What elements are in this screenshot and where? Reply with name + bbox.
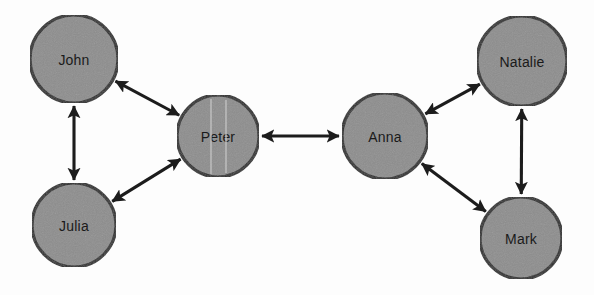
network-graph: JohnJuliaPeterAnnaNatalieMark xyxy=(0,0,594,295)
node-label-john: John xyxy=(58,52,89,68)
node-mark[interactable]: Mark xyxy=(480,197,562,279)
edge-anna-mark xyxy=(422,164,486,212)
node-label-natalie: Natalie xyxy=(500,54,545,70)
nodes-layer: JohnJuliaPeterAnnaNatalieMark xyxy=(30,15,567,279)
node-julia[interactable]: Julia xyxy=(32,183,116,267)
edge-anna-natalie xyxy=(425,84,480,114)
diagram-canvas: JohnJuliaPeterAnnaNatalieMark xyxy=(0,0,594,295)
node-peter[interactable]: Peter xyxy=(177,95,259,177)
edges-layer xyxy=(74,81,522,211)
node-anna[interactable]: Anna xyxy=(342,93,428,179)
node-label-julia: Julia xyxy=(59,218,89,234)
node-label-mark: Mark xyxy=(505,231,538,247)
node-label-anna: Anna xyxy=(368,129,402,145)
edge-julia-peter xyxy=(112,159,180,201)
edge-john-peter xyxy=(115,81,179,115)
node-john[interactable]: John xyxy=(30,15,118,103)
node-natalie[interactable]: Natalie xyxy=(477,16,567,106)
node-label-peter: Peter xyxy=(201,129,236,145)
